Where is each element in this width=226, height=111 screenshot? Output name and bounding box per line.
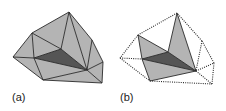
panel-b-triangulation <box>120 13 214 84</box>
panel-a-label: (a) <box>12 91 25 103</box>
dotted-edge <box>196 63 214 71</box>
dotted-edge <box>150 81 212 84</box>
light-triangle <box>13 33 34 58</box>
dotted-edge <box>196 71 212 84</box>
dotted-edge <box>196 41 202 71</box>
triangulation-figure <box>0 0 226 111</box>
dotted-edge <box>138 13 177 35</box>
dotted-edge <box>212 63 214 84</box>
dotted-edge <box>120 58 142 59</box>
dotted-edge <box>120 35 138 58</box>
panel-a-triangulation <box>13 12 103 83</box>
dotted-edge <box>202 41 214 63</box>
panel-b-label: (b) <box>120 91 133 103</box>
